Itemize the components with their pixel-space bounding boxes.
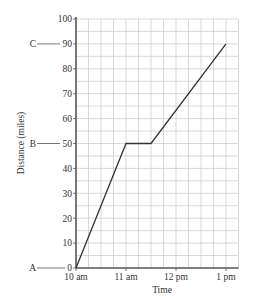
x-tick-label: 1 pm	[216, 272, 236, 282]
y-tick-label: 80	[63, 64, 73, 74]
distance-time-chart: 0102030405060708090100 10 am11 am12 pm1 …	[0, 0, 255, 303]
y-tick-label: 50	[63, 139, 73, 149]
y-tick-label: 10	[63, 238, 73, 248]
y-tick-label: 70	[63, 89, 73, 99]
y-tick-labels: 0102030405060708090100	[58, 14, 76, 273]
y-tick-label: 30	[63, 189, 73, 199]
x-tick-labels: 10 am11 am12 pm1 pm	[64, 268, 236, 282]
annotation-label-b: B	[30, 139, 36, 149]
grid	[76, 19, 239, 268]
y-axis-title: Distance (miles)	[16, 112, 27, 175]
point-annotations: ABC	[29, 39, 65, 273]
x-tick-label: 12 pm	[164, 272, 189, 282]
y-tick-label: 60	[63, 114, 73, 124]
y-tick-label: 90	[63, 39, 73, 49]
y-tick-label: 40	[63, 164, 73, 174]
x-tick-label: 11 am	[114, 272, 138, 282]
y-tick-label: 100	[58, 14, 73, 24]
annotation-label-c: C	[30, 39, 36, 49]
x-tick-label: 10 am	[64, 272, 88, 282]
x-axis-title: Time	[152, 285, 172, 295]
annotation-label-a: A	[29, 263, 36, 273]
y-tick-label: 20	[63, 214, 73, 224]
